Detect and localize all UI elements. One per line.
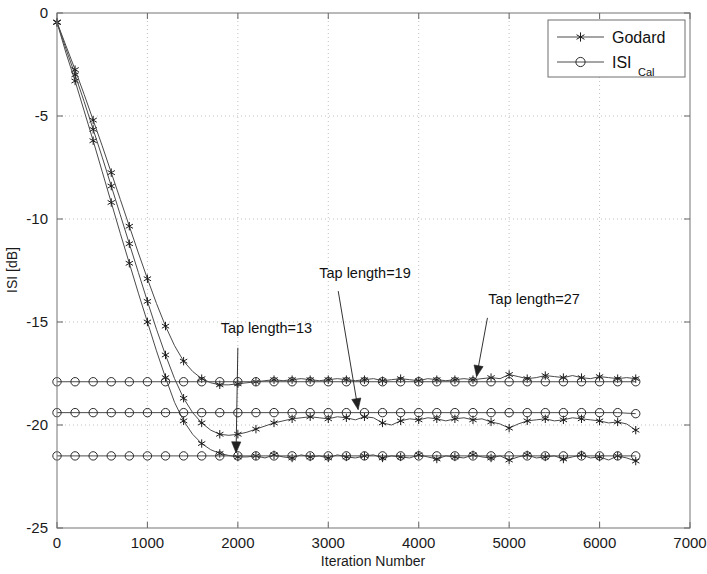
annotation-label: Tap length=19 xyxy=(319,265,411,281)
y-tick-label: -20 xyxy=(26,416,48,433)
x-tick-label: 7000 xyxy=(673,534,706,551)
x-tick-label: 5000 xyxy=(492,534,525,551)
legend-label: ISI xyxy=(612,54,632,71)
isi-convergence-chart: Tap length=13Tap length=19Tap length=27 … xyxy=(0,0,707,574)
y-axis-title: ISI [dB] xyxy=(4,247,20,293)
y-tick-label: -5 xyxy=(35,107,48,124)
y-tick-label: -15 xyxy=(26,313,48,330)
legend-label: Godard xyxy=(612,29,665,46)
x-tick-label: 3000 xyxy=(312,534,345,551)
y-tick-label: -10 xyxy=(26,210,48,227)
x-tick-label: 6000 xyxy=(583,534,616,551)
y-tick-label: 0 xyxy=(40,4,48,21)
x-tick-label: 4000 xyxy=(402,534,435,551)
x-axis-title: Iteration Number xyxy=(321,553,426,569)
annotation-label: Tap length=27 xyxy=(488,291,580,307)
chart-legend[interactable]: GodardISICal xyxy=(548,20,685,78)
chart-background xyxy=(0,0,707,574)
legend-label-subscript: Cal xyxy=(638,66,655,78)
annotation-label: Tap length=13 xyxy=(221,320,313,336)
y-tick-label: -25 xyxy=(26,519,48,536)
chart-figure: Tap length=13Tap length=19Tap length=27 … xyxy=(0,0,707,574)
x-tick-label: 0 xyxy=(53,534,61,551)
x-tick-label: 1000 xyxy=(131,534,164,551)
x-tick-label: 2000 xyxy=(221,534,254,551)
